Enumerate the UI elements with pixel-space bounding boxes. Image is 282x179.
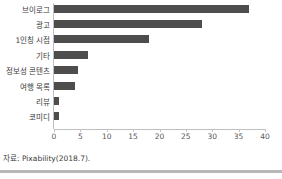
- category-label-0: 브이로그: [22, 7, 50, 15]
- category-label-4: 정보성 콘텐츠: [6, 68, 50, 76]
- category-label-6: 리뷰: [36, 99, 50, 107]
- x-tick-label-6: 30: [207, 133, 217, 141]
- x-tick-label-5: 25: [181, 133, 191, 141]
- x-tick-label-2: 10: [102, 133, 112, 141]
- bar-6: [54, 97, 59, 105]
- bar-5: [54, 82, 75, 90]
- x-tick-label-1: 5: [78, 133, 83, 141]
- source-note: 자료: Pixability(2018.7).: [3, 155, 90, 163]
- category-label-7: 코미디: [29, 114, 50, 122]
- bar-2: [54, 35, 149, 43]
- bar-0: [54, 5, 249, 13]
- plot-area: 브이로그 광고 1인칭 시점 기타 정보성 콘텐츠 여행 목록 리뷰 코미디 0…: [0, 0, 282, 133]
- x-tick-label-7: 35: [234, 133, 244, 141]
- bar-3: [54, 51, 88, 59]
- category-label-1: 광고: [36, 22, 50, 30]
- bar-7: [54, 112, 59, 120]
- x-tick-label-0: 0: [52, 133, 57, 141]
- category-label-2: 1인칭 시점: [15, 37, 50, 45]
- category-label-3: 기타: [36, 53, 50, 61]
- category-label-5: 여행 목록: [20, 84, 50, 92]
- bar-chart-figure: 브이로그 광고 1인칭 시점 기타 정보성 콘텐츠 여행 목록 리뷰 코미디 0…: [0, 0, 282, 179]
- bar-1: [54, 20, 202, 28]
- x-tick-label-8: 40: [260, 133, 270, 141]
- bottom-rule: [0, 170, 282, 173]
- bar-4: [54, 66, 78, 74]
- x-tick-label-4: 20: [155, 133, 165, 141]
- x-tick-label-3: 15: [128, 133, 138, 141]
- y-axis-line: [53, 3, 54, 129]
